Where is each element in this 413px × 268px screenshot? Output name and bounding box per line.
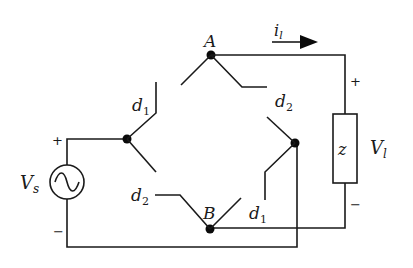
switch-a-left xyxy=(181,55,211,85)
sine-wave-icon xyxy=(55,173,79,191)
switch-a-right xyxy=(211,55,267,87)
load-voltage-label: Vl xyxy=(370,137,387,161)
switch-d1-bottom xyxy=(265,143,295,200)
d1-top-label: d1 xyxy=(132,95,150,118)
d2-top-label: d2 xyxy=(275,91,293,114)
load-minus-sign: − xyxy=(350,197,361,212)
load-plus-sign: + xyxy=(350,74,361,89)
source-minus-sign: − xyxy=(53,224,64,239)
load-return-wire xyxy=(210,183,345,228)
switch-left-lower xyxy=(127,139,156,172)
node-b-label: B xyxy=(202,203,216,223)
current-label: il xyxy=(274,21,283,42)
source-plus-sign: + xyxy=(52,133,63,148)
source-voltage-label: Vs xyxy=(20,172,39,196)
switch-d2-right xyxy=(267,117,295,143)
d1-bottom-label: d1 xyxy=(249,203,267,226)
impedance-label: z xyxy=(337,140,347,159)
node-a-label: A xyxy=(202,31,216,51)
switch-d2-bottom xyxy=(155,195,210,229)
ac-voltage-source xyxy=(50,139,297,247)
bridge-rectifier-circuit: A B il d1 d2 d2 d1 z Vl Vs + − + − xyxy=(0,0,413,268)
d2-bottom-label: d2 xyxy=(131,185,149,208)
